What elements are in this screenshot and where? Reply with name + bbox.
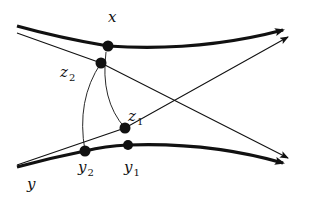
label-z2: z2 (59, 63, 75, 83)
ray-x-curve (17, 26, 283, 47)
label-x: x (108, 8, 117, 26)
line-through-z2 (17, 33, 288, 158)
geodesic-diagram: x z2 z1 y2 y1 y (0, 0, 309, 200)
arc-x-to-z1 (105, 52, 125, 128)
point-x (103, 41, 114, 52)
point-y2 (80, 146, 91, 157)
arc-z2-to-y2 (83, 63, 101, 151)
label-z1: z1 (127, 107, 143, 127)
label-y2: y2 (77, 158, 94, 178)
ray-y-curve (17, 145, 283, 167)
label-y: y (26, 175, 36, 193)
point-z2 (96, 58, 107, 69)
label-y1: y1 (123, 158, 140, 178)
point-y1 (123, 140, 133, 150)
